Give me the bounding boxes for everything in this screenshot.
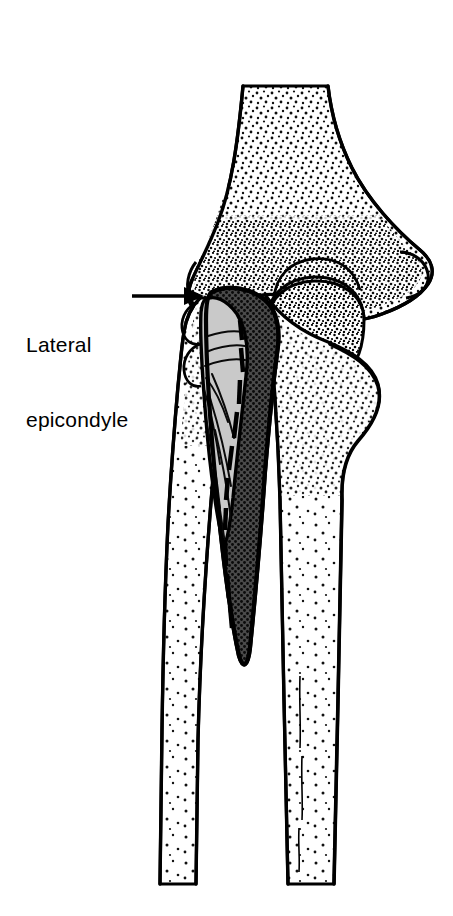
extensor-muscle xyxy=(201,288,279,665)
label-lateral-epicondyle-line1: Lateral xyxy=(26,332,128,357)
anatomical-figure: Lateral epicondyle xyxy=(0,0,453,916)
label-lateral-epicondyle: Lateral epicondyle xyxy=(26,282,128,482)
ulna xyxy=(260,296,390,884)
label-lateral-epicondyle-line2: epicondyle xyxy=(26,407,128,432)
